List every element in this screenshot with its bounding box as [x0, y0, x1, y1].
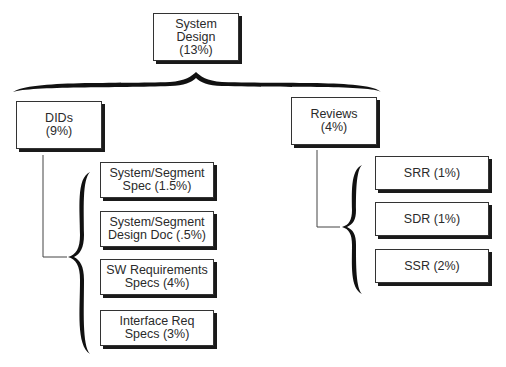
- reviews-brace: [342, 165, 362, 294]
- node-label: Interface Req Specs (3%): [119, 315, 194, 341]
- node-dids-label: DIDs (9%): [45, 112, 73, 138]
- top-brace: [13, 72, 381, 92]
- reviews-connector: [317, 150, 340, 227]
- node-interface-req-specs: Interface Req Specs (3%): [100, 310, 214, 346]
- node-system-segment-design-doc: System/Segment Design Doc (.5%): [100, 211, 214, 247]
- node-label: System/Segment Design Doc (.5%): [108, 216, 206, 242]
- node-reviews-label: Reviews (4%): [310, 108, 357, 134]
- dids-connector: [43, 155, 67, 257]
- node-system-segment-spec: System/Segment Spec (1.5%): [100, 162, 214, 198]
- node-label: SDR (1%): [404, 213, 460, 226]
- node-label: SW Requirements Specs (4%): [106, 264, 207, 290]
- node-label: System/Segment Spec (1.5%): [109, 167, 204, 193]
- node-label: SSR (2%): [404, 260, 460, 273]
- root-node-label: System Design (13%): [175, 18, 217, 57]
- node-sdr: SDR (1%): [375, 202, 489, 236]
- node-dids: DIDs (9%): [16, 101, 102, 149]
- node-reviews: Reviews (4%): [291, 97, 377, 145]
- dids-brace: [68, 172, 90, 354]
- root-node-system-design: System Design (13%): [153, 13, 239, 61]
- node-srr: SRR (1%): [375, 156, 489, 190]
- node-label: SRR (1%): [404, 167, 460, 180]
- node-sw-requirements-specs: SW Requirements Specs (4%): [100, 259, 214, 295]
- node-ssr: SSR (2%): [375, 249, 489, 283]
